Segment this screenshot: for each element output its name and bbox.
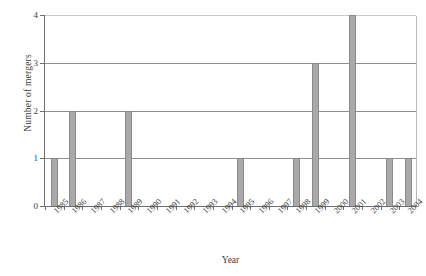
gridline-4	[45, 15, 416, 16]
plot-area: 01234	[44, 16, 417, 207]
bar-2001	[349, 15, 356, 206]
y-tick-label-4: 4	[21, 11, 38, 20]
bar-1998	[293, 158, 300, 206]
gridline-3	[45, 63, 416, 64]
bar-2003	[386, 158, 393, 206]
y-tick-4	[40, 15, 45, 16]
gridline-1	[45, 158, 416, 159]
x-axis-title: Year	[44, 255, 417, 265]
bar-1985	[51, 158, 58, 206]
bar-1989	[125, 111, 132, 207]
gridline-2	[45, 111, 416, 112]
y-tick-label-2: 2	[21, 107, 38, 116]
y-tick-label-1: 1	[21, 154, 38, 163]
y-tick-label-0: 0	[21, 202, 38, 211]
x-axis-tick-labels: 1985198619871988198919901991199219931994…	[44, 209, 417, 249]
merger-bar-chart: Number of mergers 01234 1985198619871988…	[0, 0, 426, 276]
y-tick-1	[40, 158, 45, 159]
y-tick-label-3: 3	[21, 59, 38, 68]
y-tick-2	[40, 111, 45, 112]
bar-1999	[312, 63, 319, 206]
bar-2004	[405, 158, 412, 206]
y-tick-3	[40, 63, 45, 64]
bar-1995	[237, 158, 244, 206]
bar-1986	[69, 111, 76, 207]
